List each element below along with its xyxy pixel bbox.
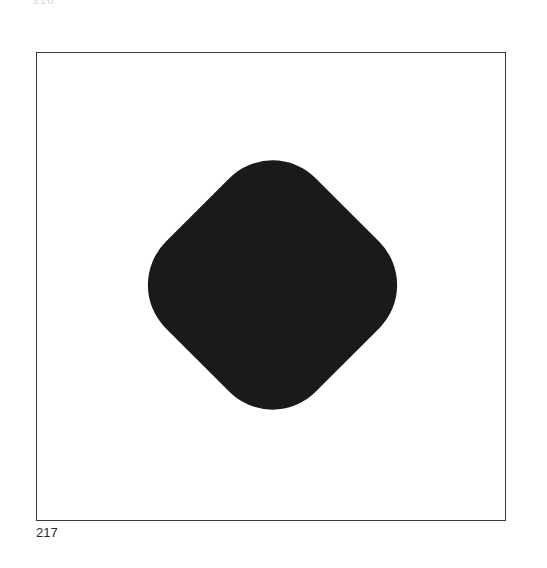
page-header-fragment: 216 — [33, 0, 54, 6]
rounded-diamond-shape — [123, 135, 423, 435]
plate-number: 217 — [36, 526, 58, 539]
figure-frame — [36, 52, 506, 521]
figure-canvas — [37, 53, 504, 519]
